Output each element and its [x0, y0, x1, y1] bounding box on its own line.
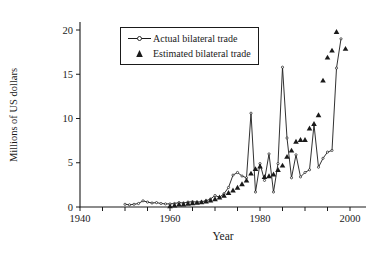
svg-text:1940: 1940 [70, 213, 91, 224]
svg-text:1960: 1960 [160, 213, 181, 224]
legend: Actual bilateral trade Estimated bilater… [120, 27, 259, 65]
chart: 194019601980200005101520YearMillions of … [0, 0, 377, 254]
svg-text:2000: 2000 [340, 213, 361, 224]
svg-text:5: 5 [68, 157, 73, 168]
legend-item-estimated: Estimated bilateral trade [126, 46, 251, 61]
svg-text:Year: Year [212, 230, 233, 242]
filled-triangle-marker-icon [126, 49, 153, 58]
legend-label-actual: Actual bilateral trade [153, 31, 237, 46]
svg-text:20: 20 [63, 25, 74, 36]
svg-text:1980: 1980 [250, 213, 271, 224]
legend-item-actual: Actual bilateral trade [126, 31, 251, 46]
svg-text:10: 10 [63, 113, 74, 124]
legend-label-estimated: Estimated bilateral trade [153, 46, 251, 61]
svg-text:15: 15 [63, 69, 74, 80]
line-circle-marker-icon [126, 34, 153, 43]
svg-text:0: 0 [68, 202, 73, 213]
svg-text:Millions of US dollars: Millions of US dollars [8, 68, 19, 162]
